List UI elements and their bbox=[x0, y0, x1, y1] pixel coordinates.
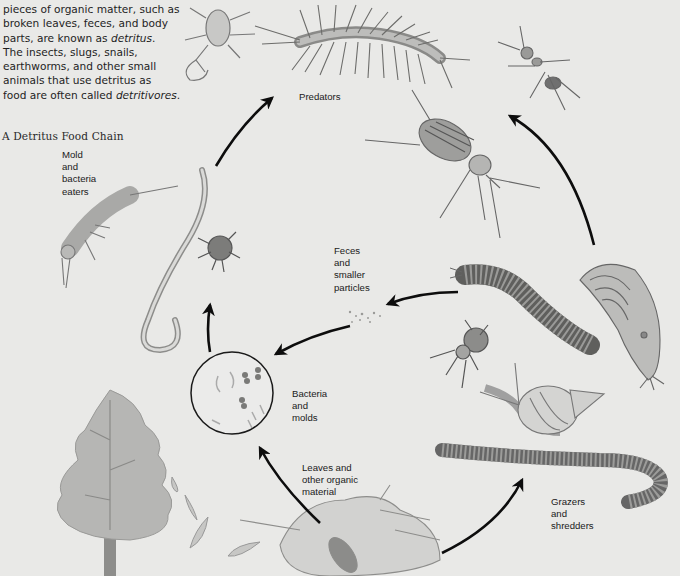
ant-icon bbox=[498, 26, 580, 110]
arrow-feces-to-bacteria bbox=[276, 326, 350, 354]
arrow-grazers-to-predators bbox=[510, 116, 594, 245]
flow-arrows bbox=[208, 98, 594, 553]
label-bacteria: Bacteria and molds bbox=[292, 388, 327, 425]
bacteria-circle-icon bbox=[191, 352, 273, 434]
springtail-icon bbox=[61, 186, 178, 288]
label-predators: Predators bbox=[299, 91, 341, 103]
centipede-icon bbox=[255, 5, 470, 88]
label-feces: Feces and smaller particles bbox=[334, 245, 370, 294]
arrow-mold-eaters-to-predators bbox=[216, 98, 272, 166]
arrow-grazers-to-feces bbox=[388, 292, 458, 304]
slug-icon bbox=[580, 264, 664, 390]
falling-leaves-icon bbox=[172, 477, 260, 556]
feces-particles-icon bbox=[349, 311, 381, 323]
label-leaves: Leaves and other organic material bbox=[302, 462, 358, 499]
arrow-bacteria-to-mold-eaters bbox=[208, 305, 210, 352]
ground-beetle-icon bbox=[365, 90, 540, 238]
mite-icon-2 bbox=[430, 320, 488, 388]
arrow-leaves-to-grazers bbox=[442, 480, 522, 553]
nematode-worm-icon bbox=[144, 170, 205, 350]
tree-icon bbox=[57, 390, 172, 576]
diagram-page: pieces of organic matter, such as broken… bbox=[0, 0, 680, 576]
snail-icon bbox=[480, 363, 604, 434]
mite-icon bbox=[198, 232, 240, 272]
leaf-litter-icon bbox=[240, 485, 440, 576]
pseudoscorpion-icon bbox=[185, 8, 255, 80]
label-grazers: Grazers and shredders bbox=[551, 496, 594, 533]
label-mold-eaters: Mold and bacteria eaters bbox=[62, 149, 96, 198]
earthworm-icon bbox=[442, 450, 661, 502]
